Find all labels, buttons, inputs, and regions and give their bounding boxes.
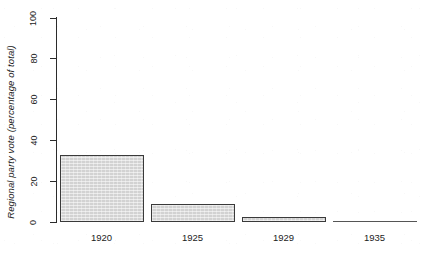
- x-tick-label-1935: 1935: [329, 232, 420, 243]
- y-tick-label-text: 0: [29, 219, 38, 224]
- y-axis-title: Regional party vote (percentage of total…: [0, 0, 20, 264]
- bar-1929: [242, 217, 326, 222]
- y-tick-label-text: 80: [29, 54, 38, 64]
- y-tick-label-text: 20: [29, 176, 38, 186]
- y-tick-label-text: 40: [29, 135, 38, 145]
- x-tick-label-1925: 1925: [147, 232, 238, 243]
- y-tick-label-text: 100: [30, 10, 39, 25]
- y-tick-label: 100: [22, 12, 46, 24]
- y-tick-label-text: 60: [29, 95, 38, 105]
- y-tick-label: 60: [22, 94, 46, 106]
- plot-area: [56, 18, 420, 222]
- bar-1935: [333, 221, 417, 222]
- y-tick-label: 20: [22, 175, 46, 187]
- x-tick-label-1929: 1929: [238, 232, 329, 243]
- x-tick-label-1920: 1920: [56, 232, 147, 243]
- y-tick-label: 40: [22, 134, 46, 146]
- y-tick-label: 0: [22, 216, 46, 228]
- bar-1920: [60, 155, 144, 222]
- bar-1925: [151, 204, 235, 222]
- bar-chart-figure: Regional party vote (percentage of total…: [0, 0, 430, 264]
- y-tick-label: 80: [22, 53, 46, 65]
